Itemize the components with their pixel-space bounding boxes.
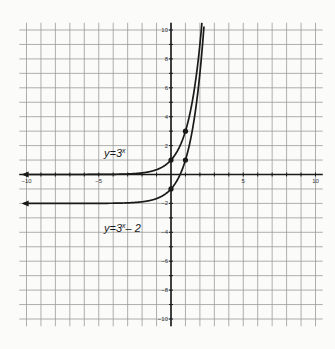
curve-1 (24, 27, 204, 204)
y-tick-label: −2 (161, 200, 169, 206)
arrow-left-icon (22, 200, 29, 206)
data-point (183, 129, 188, 134)
x-tick-label: −5 (95, 178, 103, 184)
y-tick-label: 10 (161, 27, 168, 33)
x-tick-label: −10 (21, 178, 32, 184)
equation-label-y-3x-minus-2: y=3x– 2 (103, 222, 141, 234)
equation-label-y-3x: y=3x (103, 147, 126, 159)
data-point (183, 157, 188, 162)
y-tick-label: −8 (161, 287, 169, 293)
x-tick-label: 10 (312, 178, 319, 184)
data-point (168, 157, 173, 162)
y-tick-label: −10 (158, 316, 169, 322)
data-point (168, 186, 173, 191)
curves (22, 23, 204, 207)
coordinate-plane: −10−5510108642−2−4−6−8−10 y=3x y=3x– 2 (0, 0, 335, 349)
y-tick-label: −6 (161, 258, 169, 264)
y-tick-label: −4 (161, 229, 169, 235)
x-tick-label: 5 (242, 178, 246, 184)
